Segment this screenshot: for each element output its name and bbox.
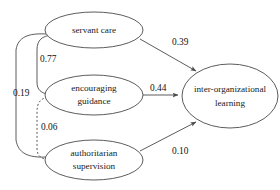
node-encouraging-guidance[interactable]	[45, 75, 143, 115]
node-label-encouraging-guidance-line2: guidance	[77, 96, 110, 106]
path-diagram-canvas: servant care encouraging guidance author…	[0, 0, 280, 190]
node-label-servant-care: servant care	[72, 25, 116, 35]
node-label-authoritarian-supervision-line2: supervision	[73, 161, 116, 171]
coefficient-label-encouraging-to-learning: 0.44	[150, 83, 167, 93]
coefficient-label-servant-authoritarian: 0.19	[13, 88, 30, 98]
coefficient-label-encouraging-authoritarian: 0.06	[41, 122, 58, 132]
node-inter-organizational-learning[interactable]	[182, 64, 278, 128]
node-label-authoritarian-supervision-line1: authoritarian	[71, 148, 118, 158]
coefficient-label-servant-encouraging: 0.77	[40, 54, 57, 64]
node-label-encouraging-guidance-line1: encouraging	[71, 83, 117, 93]
node-label-inter-organizational-learning-line2: learning	[215, 98, 246, 108]
coefficient-label-servant-to-learning: 0.39	[172, 37, 189, 47]
correlation-servant-encouraging	[37, 35, 52, 95]
path-diagram-container: servant care encouraging guidance author…	[0, 0, 280, 190]
node-label-inter-organizational-learning-line1: inter-organizational	[194, 84, 267, 94]
node-authoritarian-supervision[interactable]	[45, 140, 143, 180]
coefficient-label-authoritarian-to-learning: 0.10	[172, 146, 189, 156]
